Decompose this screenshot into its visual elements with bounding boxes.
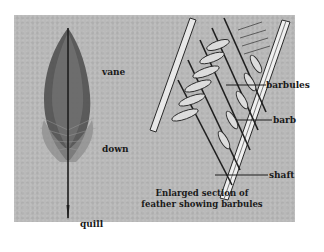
quill-label: quill <box>80 220 103 229</box>
caption-line-1: Enlarged section of <box>138 188 266 199</box>
feather-illustration <box>0 0 324 252</box>
barb-label: barb <box>273 116 296 125</box>
vane-label: vane <box>102 68 125 77</box>
feather-icon <box>40 28 96 220</box>
barbules-label: barbules <box>266 81 310 90</box>
caption-line-2: feather showing barbules <box>138 199 266 210</box>
down-label: down <box>102 145 129 154</box>
figure-caption: Enlarged section of feather showing barb… <box>138 188 266 210</box>
shaft-label: shaft <box>269 171 294 180</box>
